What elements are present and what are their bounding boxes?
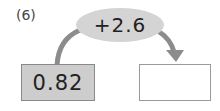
start-value-text: 0.82 — [33, 71, 84, 95]
arrowhead-icon — [166, 50, 184, 62]
start-value-box: 0.82 — [21, 64, 95, 101]
answer-box[interactable] — [139, 64, 211, 101]
operation-bubble: +2.6 — [76, 8, 164, 42]
left-arc-icon — [57, 30, 80, 65]
operation-text: +2.6 — [94, 13, 147, 37]
right-arc-icon — [158, 31, 174, 52]
